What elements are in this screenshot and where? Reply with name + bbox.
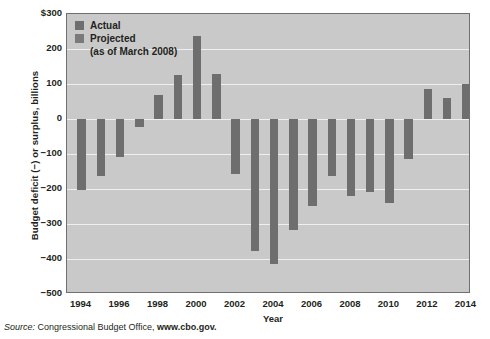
bar-1998 xyxy=(154,95,163,119)
bar-2004 xyxy=(270,119,279,264)
y-tick-label--200: −200 xyxy=(2,183,62,193)
legend-swatch-projected xyxy=(75,34,84,43)
source-label: Source: xyxy=(4,322,35,332)
x-tick-label-2014: 2014 xyxy=(442,298,488,309)
budget-deficit-chart-figure: Budget deficit (−) or surplus, billions … xyxy=(0,0,490,339)
y-tick-label-100: 100 xyxy=(2,78,62,88)
bar-2003 xyxy=(251,119,260,251)
bar-2013 xyxy=(443,98,452,119)
y-tick-label--500: −500 xyxy=(2,288,62,298)
x-axis-title: Year xyxy=(243,313,303,324)
bar-2002 xyxy=(231,119,240,174)
legend-swatch-actual xyxy=(75,21,84,30)
y-tick-label-0: 0 xyxy=(2,113,62,123)
bar-1997 xyxy=(135,119,144,127)
bar-2005 xyxy=(289,119,298,230)
source-text: Congressional Budget Office, xyxy=(38,322,155,332)
bar-2011 xyxy=(404,119,413,159)
y-tick-label-300: $300 xyxy=(2,8,62,18)
bar-1994 xyxy=(77,119,86,190)
y-tick-label-200: 200 xyxy=(2,43,62,53)
bar-2009 xyxy=(366,119,375,192)
bar-2014 xyxy=(462,84,470,119)
y-tick-label--100: −100 xyxy=(2,148,62,158)
y-tick-label--300: −300 xyxy=(2,218,62,228)
legend: Actual Projected (as of March 2008) xyxy=(75,20,177,57)
bar-2007 xyxy=(328,119,337,176)
source-url[interactable]: www.cbo.gov. xyxy=(157,322,217,332)
bar-1996 xyxy=(116,119,125,157)
source-note: Source: Congressional Budget Office, www… xyxy=(4,322,216,332)
bar-2008 xyxy=(347,119,356,196)
legend-item-projected: Projected xyxy=(75,33,177,44)
legend-label-projected: Projected xyxy=(90,33,136,44)
bar-2012 xyxy=(424,89,433,120)
legend-label-actual: Actual xyxy=(90,20,121,31)
plot-area: Actual Projected (as of March 2008) xyxy=(66,13,470,293)
legend-subtitle: (as of March 2008) xyxy=(90,46,177,57)
bar-1995 xyxy=(97,119,106,176)
legend-item-actual: Actual xyxy=(75,20,177,31)
bar-2006 xyxy=(308,119,317,206)
bar-2000 xyxy=(193,36,202,119)
y-tick-label--400: −400 xyxy=(2,253,62,263)
bar-2001 xyxy=(212,74,221,119)
bar-2010 xyxy=(385,119,394,203)
bar-1999 xyxy=(174,75,183,119)
